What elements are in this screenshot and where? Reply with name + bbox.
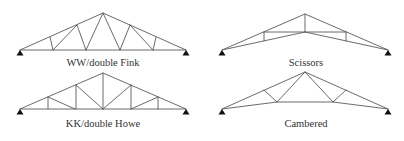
pin-support-icon	[183, 109, 190, 115]
web-member	[130, 25, 153, 50]
pin-support-icon	[219, 109, 226, 115]
pin-support-icon	[183, 50, 190, 56]
web-member	[333, 90, 346, 102]
web-member	[103, 13, 120, 50]
top-chord	[20, 13, 186, 50]
web-member	[153, 37, 156, 50]
web-member	[86, 13, 103, 50]
top-chord	[222, 72, 388, 109]
pin-support-icon	[17, 50, 24, 56]
pin-support-icon	[17, 109, 24, 115]
web-member	[264, 90, 277, 102]
pin-support-icon	[385, 109, 392, 115]
web-member	[77, 25, 86, 50]
label-kk-double-howe: KK/double Howe	[66, 119, 140, 130]
truss-diagram	[0, 0, 404, 141]
label-ww-double-fink: WW/double Fink	[66, 58, 139, 69]
label-cambered: Cambered	[284, 119, 327, 130]
bottom-chord	[222, 102, 388, 109]
truss-ww-double-fink	[17, 13, 190, 56]
web-member	[53, 25, 77, 50]
web-member	[305, 72, 333, 102]
bottom-chord	[222, 32, 388, 50]
web-member	[50, 37, 53, 50]
truss-scissors	[219, 14, 392, 56]
truss-cambered	[219, 72, 392, 115]
web-member	[48, 97, 75, 109]
label-scissors: Scissors	[289, 58, 323, 69]
web-member	[131, 97, 158, 109]
pin-support-icon	[385, 50, 392, 56]
web-member	[277, 72, 305, 102]
truss-kk-double-howe	[17, 73, 190, 115]
web-member	[76, 85, 103, 109]
web-member	[103, 85, 131, 109]
web-member	[120, 25, 130, 50]
pin-support-icon	[219, 50, 226, 56]
